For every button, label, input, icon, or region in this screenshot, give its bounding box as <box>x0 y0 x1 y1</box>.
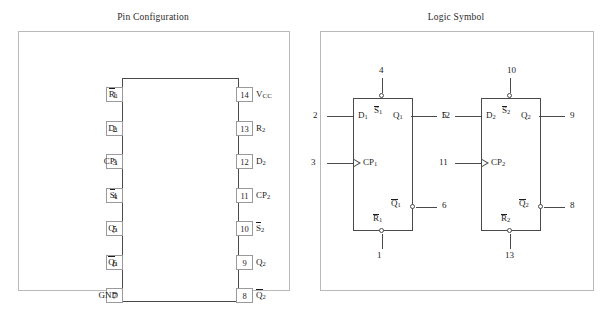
pin-label-9: Q2 <box>256 255 316 270</box>
q-label-1: Q1 <box>393 110 403 120</box>
reset-lead-1 <box>382 234 383 249</box>
logic-symbol-panel: 4S12D15Q13CP16Q11R110S212D29Q211CP28Q213… <box>320 31 594 291</box>
reset-bubble-2 <box>507 228 512 233</box>
pin-configuration-panel: 1R12D13CP14S15Q16Q17GND 14VCC13R212D211C… <box>18 31 290 291</box>
data-lead-1 <box>327 116 353 117</box>
reset-bubble-1 <box>379 228 384 233</box>
reset-pin-number-2[interactable]: 13 <box>505 250 514 260</box>
pin-label-4: S1 <box>26 188 118 203</box>
set-bubble-2 <box>507 93 512 98</box>
q-label-2: Q2 <box>521 110 531 120</box>
logic-symbol-title: Logic Symbol <box>320 12 592 22</box>
clock-triangle-inner-1 <box>354 160 359 166</box>
pin-label-10: S2 <box>256 221 316 236</box>
set-pin-number-2[interactable]: 10 <box>507 65 516 75</box>
pin-configuration-title: Pin Configuration <box>18 12 288 22</box>
pin-label-13: R2 <box>256 121 316 136</box>
pin-box-10[interactable]: 10 <box>236 221 253 236</box>
q-pin-number-2[interactable]: 9 <box>570 110 575 120</box>
reset-label-1: R1 <box>373 213 382 223</box>
clock-lead-1 <box>327 163 353 164</box>
pin-box-13[interactable]: 13 <box>236 121 253 136</box>
qbar-pin-number-2[interactable]: 8 <box>570 200 575 210</box>
reset-label-2: R2 <box>501 213 510 223</box>
pin-label-2: D1 <box>26 121 118 136</box>
clock-pin-number-2[interactable]: 11 <box>439 157 448 167</box>
pin-label-1: R1 <box>26 87 118 102</box>
clock-pin-number-1[interactable]: 3 <box>311 157 316 167</box>
qbar-lead-2 <box>544 207 565 208</box>
pin-label-12: D2 <box>256 154 316 169</box>
pin-label-7: GND <box>26 288 118 303</box>
reset-lead-2 <box>510 234 511 249</box>
data-label-1: D1 <box>358 110 368 120</box>
clock-label-2: CP2 <box>491 157 505 167</box>
pin-box-14[interactable]: 14 <box>236 87 253 102</box>
q-lead-2 <box>539 116 565 117</box>
data-label-2: D2 <box>486 110 496 120</box>
clock-triangle-inner-2 <box>482 160 487 166</box>
qbar-lead-1 <box>416 207 437 208</box>
clock-label-1: CP1 <box>363 157 377 167</box>
qbar-bubble-1 <box>410 204 415 209</box>
qbar-pin-number-1[interactable]: 6 <box>442 200 447 210</box>
pin-box-12[interactable]: 12 <box>236 154 253 169</box>
data-pin-number-1[interactable]: 2 <box>313 110 318 120</box>
set-pin-number-1[interactable]: 4 <box>379 65 384 75</box>
qbar-bubble-2 <box>538 204 543 209</box>
qbar-label-1: Q1 <box>391 198 401 208</box>
pin-label-6: Q1 <box>26 255 118 270</box>
reset-pin-number-1[interactable]: 1 <box>377 250 382 260</box>
pin-label-5: Q1 <box>26 221 118 236</box>
set-bubble-1 <box>379 93 384 98</box>
pin-label-14: VCC <box>256 87 316 102</box>
qbar-label-2: Q2 <box>519 198 529 208</box>
pin-label-3: CP1 <box>26 154 118 169</box>
pin-box-9[interactable]: 9 <box>236 255 253 270</box>
pin-box-11[interactable]: 11 <box>236 188 253 203</box>
set-label-1: S1 <box>374 105 382 115</box>
set-lead-1 <box>382 78 383 93</box>
data-pin-number-2[interactable]: 12 <box>441 110 450 120</box>
set-lead-2 <box>510 78 511 93</box>
q-lead-1 <box>411 116 437 117</box>
pin-label-11: CP2 <box>256 188 316 203</box>
data-lead-2 <box>455 116 481 117</box>
pin-label-8: Q2 <box>256 288 316 303</box>
pin-box-8[interactable]: 8 <box>236 288 253 303</box>
clock-lead-2 <box>455 163 481 164</box>
set-label-2: S2 <box>502 105 510 115</box>
ic-package-body <box>122 78 239 302</box>
